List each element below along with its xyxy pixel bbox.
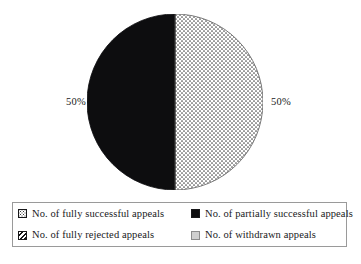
- legend-item-partially-successful: No. of partially successful appeals: [186, 208, 346, 220]
- legend-label-fully-rejected: No. of fully rejected appeals: [32, 229, 154, 241]
- solid-black-swatch-icon: [191, 209, 200, 218]
- pie-chart-figure: 50% 50%: [0, 0, 361, 198]
- pie-slice-partially-successful: [87, 14, 175, 190]
- pie-label-left-50-percent: 50%: [66, 97, 86, 108]
- legend-row: No. of fully rejected appeals No. of wit…: [13, 225, 346, 247]
- legend-label-partially-successful: No. of partially successful appeals: [205, 208, 353, 220]
- legend-item-fully-rejected: No. of fully rejected appeals: [13, 229, 186, 241]
- legend-item-withdrawn: No. of withdrawn appeals: [186, 229, 346, 241]
- legend-label-withdrawn: No. of withdrawn appeals: [205, 229, 316, 241]
- light-grey-swatch-icon: [191, 231, 200, 240]
- dotted-swatch-icon: [18, 209, 27, 218]
- legend-label-fully-successful: No. of fully successful appeals: [32, 208, 164, 220]
- pie-chart-graphic: [87, 14, 263, 190]
- legend-item-fully-successful: No. of fully successful appeals: [13, 208, 186, 220]
- chart-legend: No. of fully successful appeals No. of p…: [12, 202, 347, 247]
- diagonal-hatch-swatch-icon: [18, 231, 27, 240]
- pie-label-right-50-percent: 50%: [271, 97, 291, 108]
- pie-slice-fully-successful: [175, 14, 263, 190]
- legend-row: No. of fully successful appeals No. of p…: [13, 203, 346, 225]
